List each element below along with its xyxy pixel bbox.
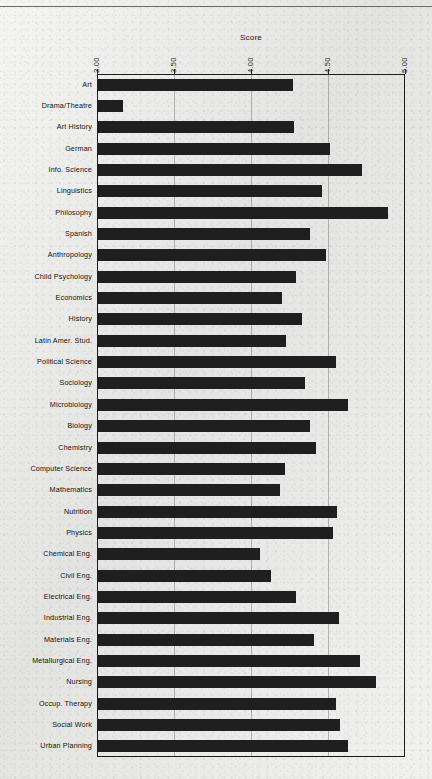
y-axis-category-label: Physics	[0, 528, 92, 537]
bar	[97, 271, 296, 283]
y-axis-category-label: Urban Planning	[0, 741, 92, 750]
bar	[97, 399, 348, 411]
bar	[97, 292, 282, 304]
y-axis-category-label: Occup. Therapy	[0, 699, 92, 708]
category-label-row: Mathematics	[0, 485, 93, 494]
y-axis-category-label: Nutrition	[0, 507, 92, 516]
bar	[97, 463, 285, 475]
y-axis-category-label: Philosophy	[0, 208, 92, 217]
category-label-row: Anthropology	[0, 250, 93, 259]
x-tick-label-4.50: 4.50	[323, 57, 332, 73]
category-label-row: Social Work	[0, 720, 93, 729]
y-axis-category-label: Chemistry	[0, 443, 92, 452]
y-axis-category-label: Latin Amer. Stud.	[0, 336, 92, 345]
y-axis-category-label: Computer Science	[0, 464, 92, 473]
bar	[97, 612, 339, 624]
y-axis-category-label: Drama/Theatre	[0, 101, 92, 110]
y-axis-category-label: Anthropology	[0, 250, 92, 259]
y-axis-category-label: Industrial Eng.	[0, 613, 92, 622]
bar	[97, 484, 280, 496]
bar	[97, 442, 316, 454]
y-axis-category-label: Political Science	[0, 357, 92, 366]
bar	[97, 164, 362, 176]
y-axis-category-label: Metallurgical Eng.	[0, 656, 92, 665]
x-tick-label-4.00: 4.00	[246, 57, 255, 73]
y-axis-category-label: Linguistics	[0, 186, 92, 195]
bar	[97, 207, 388, 219]
bar	[97, 634, 314, 646]
category-label-row: Child Psychology	[0, 272, 93, 281]
bar	[97, 548, 260, 560]
bar	[97, 377, 305, 389]
y-axis-category-label: Child Psychology	[0, 272, 92, 281]
y-axis-category-label: Chemical Eng.	[0, 549, 92, 558]
y-axis-category-label: History	[0, 314, 92, 323]
y-axis-category-label: Economics	[0, 293, 92, 302]
bar-chart: Score 3.003.504.004.505.00 ArtDrama/Thea…	[0, 0, 432, 779]
bar	[97, 100, 123, 112]
category-label-row: History	[0, 314, 93, 323]
y-axis-category-label: German	[0, 144, 92, 153]
bar	[97, 420, 310, 432]
x-tick-label-5.00: 5.00	[400, 57, 409, 73]
y-axis-category-label: Microbiology	[0, 400, 92, 409]
y-axis-category-label: Biology	[0, 421, 92, 430]
bar	[97, 356, 336, 368]
bar	[97, 185, 322, 197]
x-tick-label-3.00: 3.00	[92, 57, 101, 73]
bar	[97, 506, 337, 518]
category-label-row: Metallurgical Eng.	[0, 656, 93, 665]
category-label-row: Nursing	[0, 677, 93, 686]
bar	[97, 655, 360, 667]
category-label-row: Economics	[0, 293, 93, 302]
y-axis-category-label: Nursing	[0, 677, 92, 686]
y-axis-category-label: Art History	[0, 122, 92, 131]
category-label-row: Urban Planning	[0, 741, 93, 750]
bar	[97, 335, 286, 347]
category-label-row: Civil Eng.	[0, 571, 93, 580]
bar	[97, 249, 326, 261]
category-label-row: Spanish	[0, 229, 93, 238]
y-axis-category-label: Sociology	[0, 378, 92, 387]
y-axis-category-label: Materials Eng.	[0, 635, 92, 644]
category-label-row: Sociology	[0, 378, 93, 387]
category-label-row: Materials Eng.	[0, 635, 93, 644]
category-label-row: Physics	[0, 528, 93, 537]
bar	[97, 143, 330, 155]
category-label-row: Nutrition	[0, 507, 93, 516]
y-axis-category-label: Spanish	[0, 229, 92, 238]
bar	[97, 719, 340, 731]
bar	[97, 313, 302, 325]
bar	[97, 527, 333, 539]
bar	[97, 698, 336, 710]
bar	[97, 121, 294, 133]
category-label-row: Industrial Eng.	[0, 613, 93, 622]
bar	[97, 740, 348, 752]
y-axis-category-label: Civil Eng.	[0, 571, 92, 580]
category-label-row: Philosophy	[0, 208, 93, 217]
category-label-row: Computer Science	[0, 464, 93, 473]
category-label-row: Electrical Eng.	[0, 592, 93, 601]
category-label-row: Chemistry	[0, 443, 93, 452]
category-label-row: Art History	[0, 122, 93, 131]
x-axis-title: Score	[97, 33, 405, 42]
x-tick-label-3.50: 3.50	[169, 57, 178, 73]
category-label-row: Drama/Theatre	[0, 101, 93, 110]
bar	[97, 79, 293, 91]
category-label-row: Chemical Eng.	[0, 549, 93, 558]
category-label-row: Art	[0, 80, 93, 89]
category-label-row: Biology	[0, 421, 93, 430]
category-label-row: Occup. Therapy	[0, 699, 93, 708]
category-label-row: Political Science	[0, 357, 93, 366]
y-axis-category-label: Electrical Eng.	[0, 592, 92, 601]
bar	[97, 591, 296, 603]
category-label-row: German	[0, 144, 93, 153]
category-label-row: Linguistics	[0, 186, 93, 195]
bar	[97, 676, 376, 688]
y-axis-category-label: Art	[0, 80, 92, 89]
category-label-row: Info. Science	[0, 165, 93, 174]
bar	[97, 570, 271, 582]
y-axis-category-label: Mathematics	[0, 485, 92, 494]
category-label-row: Microbiology	[0, 400, 93, 409]
bar	[97, 228, 310, 240]
